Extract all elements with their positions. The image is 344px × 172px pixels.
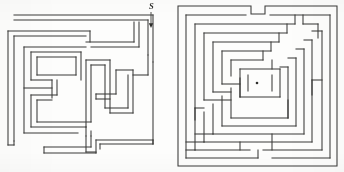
- entrance-label: S: [149, 1, 154, 11]
- right-maze-group: [178, 6, 337, 166]
- maze-drawing-canvas: S: [0, 0, 344, 172]
- maze-figure: S: [0, 0, 344, 172]
- labyrinth-center-dot: [256, 82, 259, 85]
- left-maze-group: S: [8, 1, 154, 153]
